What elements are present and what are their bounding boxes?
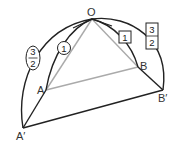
square-annotation: 1 xyxy=(119,31,131,43)
circle-annotation-text: 1 xyxy=(61,43,66,54)
outer-arc xyxy=(22,18,164,128)
oval-numerator: 3 xyxy=(30,46,35,57)
label-A-prime: A′ xyxy=(16,130,25,142)
label-O: O xyxy=(87,6,96,18)
rect-fraction-annotation: 3 2 xyxy=(146,23,158,49)
rect-numerator: 3 xyxy=(149,24,154,35)
square-annotation-text: 1 xyxy=(122,32,127,43)
oval-fraction-annotation: 3 2 xyxy=(26,46,40,70)
label-B: B xyxy=(140,60,147,72)
label-B-prime: B′ xyxy=(158,92,167,104)
diagram-canvas: O A B A′ B′ 1 3 2 1 3 2 xyxy=(0,0,177,153)
geometry-diagram: O A B A′ B′ 1 3 2 1 3 2 xyxy=(0,0,177,153)
segment-AB xyxy=(46,67,138,90)
circle-annotation: 1 xyxy=(58,42,71,55)
oval-denominator: 2 xyxy=(30,58,35,69)
label-A: A xyxy=(37,84,45,96)
rect-denominator: 2 xyxy=(149,37,154,48)
